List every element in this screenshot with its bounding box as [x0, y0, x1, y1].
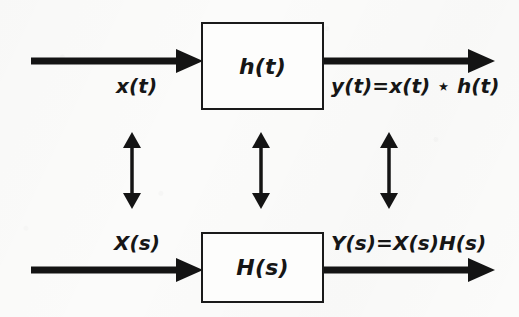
label-input-s-domain: X(s) [114, 231, 160, 255]
output-correspondence-arrow [380, 132, 398, 209]
bottom-output-arrow [324, 258, 495, 282]
label-input-time-domain: x(t) [116, 74, 157, 98]
top-output-arrow [324, 49, 495, 73]
top-input-arrow [31, 49, 203, 73]
diagram-canvas: h(t) H(s) x(t) y(t)=x(t) ⋆ h(t) X(s) Y(s… [0, 0, 519, 317]
block-correspondence-arrow [252, 132, 270, 209]
input-correspondence-arrow [123, 132, 141, 209]
label-output-time-domain: y(t)=x(t) ⋆ h(t) [331, 74, 500, 98]
label-output-s-domain: Y(s)=X(s)H(s) [331, 231, 486, 255]
block-s-domain[interactable]: H(s) [201, 232, 324, 303]
block-s-domain-label: H(s) [236, 255, 288, 280]
block-time-domain-label: h(t) [239, 54, 286, 79]
bottom-input-arrow [31, 258, 203, 282]
block-time-domain[interactable]: h(t) [201, 22, 324, 110]
